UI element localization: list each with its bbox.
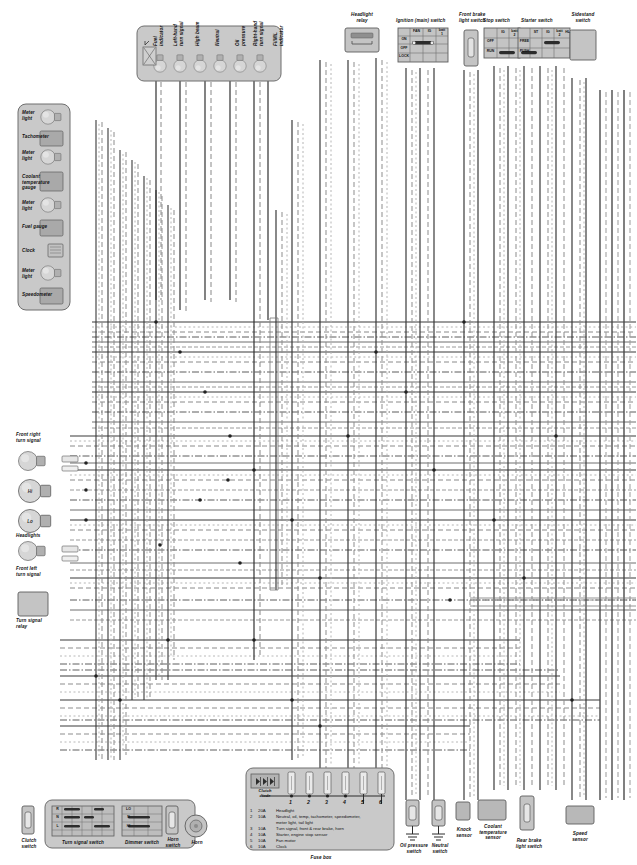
meter-label-meter-light-1: Meter light: [22, 110, 35, 121]
fuse-number-3: 3: [325, 799, 328, 805]
starter-switch-label: Starter switch: [521, 18, 553, 24]
turn-signal-row-n: N: [53, 816, 62, 820]
stop-switch-label: Stop switch: [483, 18, 510, 24]
sidestand-switch-label: Sidestand switch: [564, 12, 602, 23]
fuse-box-label: Fuse box: [296, 855, 346, 861]
starter-col-st: ST: [530, 31, 542, 35]
fuse-number-1: 1: [289, 799, 292, 805]
knock-sensor-label: Knock sensor: [451, 827, 477, 838]
turn-signal-row-r: R: [53, 808, 62, 812]
fuse-legend-6-no: 6: [250, 844, 252, 850]
speed-sensor-label: Speed sensor: [562, 831, 598, 842]
front-right-turn-signal-label: Front right turn signal: [16, 432, 41, 443]
starter-col-hl: HL: [562, 31, 573, 35]
dimmer-row-lo: LO: [123, 808, 134, 812]
wiring-svg: Hi Lo: [0, 0, 637, 865]
fuse-legend-1-desc: Headlight: [276, 808, 294, 814]
fuse-legend-2-desc: Neutral, oil, temp, tachometer, speedome…: [276, 814, 361, 825]
fuse-legend-2-rating: 10A: [258, 814, 266, 820]
headlights-label: Headlights: [16, 533, 40, 539]
clutch-switch-label: Clutch switch: [14, 838, 44, 849]
fuse-legend-1-no: 1: [250, 808, 252, 814]
fuse-legend-3-no: 3: [250, 826, 252, 832]
stop-row-off: OFF: [484, 40, 497, 44]
front-left-turn-signal-label: Front left turn signal: [16, 566, 41, 577]
ignition-col-fan: FAN: [410, 30, 423, 34]
indicator-label-left-turn: Left-hand turn signal: [173, 21, 184, 46]
indicator-label-high-beam: High beam: [195, 22, 201, 46]
indicator-label-fuel: Fuel indicator: [153, 26, 164, 46]
horn-label: Horn: [186, 840, 208, 846]
fuse-legend-3-rating: 10A: [258, 826, 266, 832]
fuse-legend-4-desc: Starter, engine stop sensor: [276, 832, 327, 838]
svg-text:Lo: Lo: [27, 519, 33, 524]
indicator-label-neutral: Neutral: [215, 29, 221, 46]
fuse-legend-5-rating: 10A: [258, 838, 266, 844]
sidestand-switch-graphic: [570, 30, 596, 60]
fuse-legend-6-rating: 10A: [258, 844, 266, 850]
stop-col-ig: IG: [497, 31, 509, 35]
coolant-temperature-sensor-label: Coolant temperature sensor: [475, 824, 511, 841]
fuse-legend-1-rating: 20A: [258, 808, 266, 814]
starter-row-push: PUSH: [518, 50, 531, 54]
meter-label-meter-light-2: Meter light: [22, 150, 35, 161]
starter-col-ig: IG: [542, 31, 554, 35]
wiring-diagram-canvas: Hi Lo: [0, 0, 637, 865]
fuse-legend-5-no: 5: [250, 838, 252, 844]
meter-label-speedometer: Speedometer: [22, 292, 52, 298]
fuse-box-graphic: [246, 768, 394, 850]
starter-row-free: FREE: [518, 40, 531, 44]
meter-label-fuel-gauge: Fuel gauge: [22, 224, 47, 230]
front-brake-light-switch-label: Front brake light switch: [459, 12, 485, 23]
fuse-number-6: 6: [379, 799, 382, 805]
ignition-col-batt1: batt 1: [436, 29, 448, 36]
fuse-number-4: 4: [343, 799, 346, 805]
rear-brake-light-switch-label: Rear brake light switch: [510, 838, 548, 849]
fuse-legend-6-desc: Clock: [276, 844, 287, 850]
fuse-number-2: 2: [307, 799, 310, 805]
headlight-relay-label: Headlight relay: [338, 12, 386, 23]
fuse-legend-3-desc: Turn signal, front & rear brake, horn: [276, 826, 344, 832]
front-brake-light-switch-graphic: [464, 30, 478, 66]
horn-switch-label: Horn switch: [161, 837, 185, 848]
stop-row-run: RUN: [484, 50, 497, 54]
indicator-label-oil-pressure: Oil pressure: [235, 26, 246, 46]
headlight-relay-graphic: [345, 28, 379, 52]
ignition-row-off: OFF: [398, 47, 410, 51]
turn-signal-switch-label: Turn signal switch: [52, 840, 114, 846]
turn-signal-row-l: L: [53, 825, 62, 829]
meter-label-tachometer: Tachometer: [22, 134, 49, 140]
meter-label-meter-light-4: Meter light: [22, 268, 35, 279]
ignition-col-ig: IG: [423, 30, 436, 34]
indicator-label-fi-mil: FI/MIL indicator: [273, 26, 284, 46]
fuse-number-5: 5: [361, 799, 364, 805]
turn-signal-relay-label: Turn signal relay: [16, 618, 42, 629]
dimmer-row-hi: HI: [123, 825, 134, 829]
dimmer-switch-label: Dimmer switch: [120, 840, 164, 846]
svg-text:Hi: Hi: [28, 489, 33, 494]
dimmer-row-n: N: [123, 816, 134, 820]
ignition-row-lock: LOCK: [397, 55, 411, 59]
meter-label-meter-light-3: Meter light: [22, 200, 35, 211]
meter-label-coolant-gauge: Coolant temperature gauge: [22, 174, 50, 191]
fuse-legend-4-no: 4: [250, 832, 252, 838]
fuse-legend-5-desc: Fan motor: [276, 838, 296, 844]
ignition-row-on: ON: [398, 38, 410, 42]
clutch-diode-label: Clutch diode: [250, 789, 280, 799]
meter-label-clock: Clock: [22, 248, 35, 254]
stop-col-batt2: batt 2: [509, 30, 520, 37]
fuse-legend-2-no: 2: [250, 814, 252, 820]
ignition-switch-label: Ignition (main) switch: [396, 18, 445, 24]
neutral-switch-label: Neutral switch: [426, 843, 454, 854]
indicator-label-right-turn: Right-hand turn signal: [253, 21, 264, 46]
fuse-legend-4-rating: 10A: [258, 832, 266, 838]
